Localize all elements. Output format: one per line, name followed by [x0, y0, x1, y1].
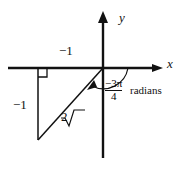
angle-denominator: 4 — [104, 91, 123, 103]
x-axis-label: x — [167, 57, 173, 70]
horizontal-leg-label: −1 — [59, 44, 73, 57]
angle-measure-fraction: −3π 4 — [104, 78, 123, 102]
y-axis-arrowhead — [98, 11, 108, 23]
hypotenuse-length-label: 2 — [61, 110, 68, 123]
vertical-leg-label: −1 — [13, 98, 27, 111]
angle-numerator: −3π — [104, 78, 123, 90]
x-axis-arrowhead — [152, 64, 163, 72]
right-angle-marker — [38, 68, 47, 77]
y-axis-label: y — [119, 11, 125, 24]
terminal-ray-hypotenuse — [38, 68, 103, 140]
angle-unit-label: radians — [130, 85, 162, 96]
